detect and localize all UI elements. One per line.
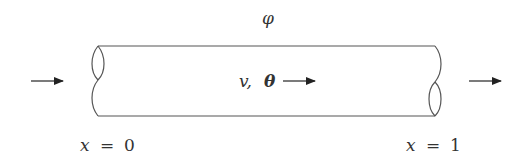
- phi-label: φ: [262, 8, 274, 28]
- left-position-value: 0: [124, 135, 135, 155]
- left-position-label: x = 0: [80, 135, 135, 155]
- right-position-value: 1: [450, 135, 461, 155]
- right-position-var: x: [406, 135, 416, 155]
- pipe-flow-diagram: φ v, θ x = 0 x = 1: [0, 0, 531, 158]
- left-break-mark: [92, 46, 104, 116]
- left-position-eq: =: [100, 135, 114, 155]
- velocity-label: v,: [239, 71, 252, 91]
- theta-label: θ: [264, 71, 276, 91]
- right-position-label: x = 1: [406, 135, 461, 155]
- right-position-eq: =: [426, 135, 440, 155]
- right-break-mark: [429, 46, 441, 116]
- left-position-var: x: [80, 135, 90, 155]
